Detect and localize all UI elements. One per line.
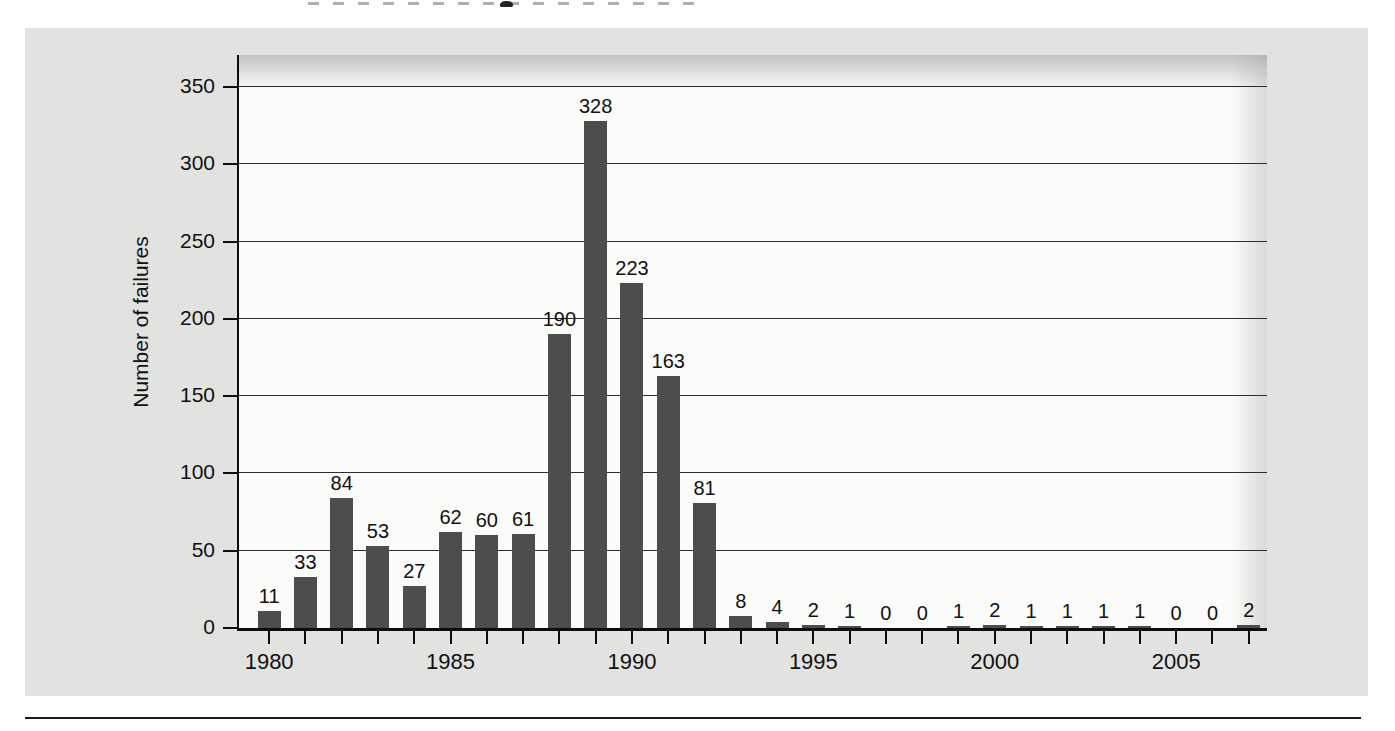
year-slot-1988: 190 — [541, 55, 577, 628]
y-tick-label-0: 0 — [147, 616, 215, 638]
bar-1986: 60 — [475, 535, 498, 628]
year-slot-2000: 22000 — [977, 55, 1013, 628]
x-tick-2000 — [994, 631, 996, 644]
bar-value-label-1990: 223 — [615, 258, 648, 278]
year-slot-2001: 1 — [1013, 55, 1049, 628]
x-tick-1997 — [885, 631, 887, 644]
bar-2004: 1 — [1128, 626, 1151, 628]
bar-1991: 163 — [657, 376, 680, 628]
y-tick-label-250: 250 — [147, 230, 215, 252]
bar-1982: 84 — [330, 498, 353, 628]
bar-1996: 1 — [838, 626, 861, 628]
bar-value-label-2001: 1 — [1025, 601, 1036, 621]
bar-1985: 62 — [439, 532, 462, 628]
y-tick-50 — [223, 550, 237, 552]
y-tick-200 — [223, 318, 237, 320]
year-slot-1980: 111980 — [251, 55, 287, 628]
bar-value-label-1991: 163 — [652, 351, 685, 371]
x-tick-1982 — [341, 631, 343, 644]
x-tick-1998 — [921, 631, 923, 644]
bar-value-label-1998: 0 — [917, 603, 928, 623]
x-tick-1980 — [268, 631, 270, 644]
x-tick-1986 — [486, 631, 488, 644]
year-slot-2002: 1 — [1049, 55, 1085, 628]
x-axis-label-1995: 1995 — [789, 649, 838, 675]
y-tick-label-200: 200 — [147, 307, 215, 329]
bar-chart-plot-area: 1119803384532762198560611903282231990163… — [237, 55, 1267, 631]
x-tick-1988 — [558, 631, 560, 644]
year-slot-1994: 4 — [759, 55, 795, 628]
x-axis-label-1990: 1990 — [607, 649, 656, 675]
page-bottom-rule — [25, 717, 1361, 719]
x-tick-1993 — [740, 631, 742, 644]
bar-value-label-2003: 1 — [1098, 601, 1109, 621]
y-tick-250 — [223, 241, 237, 243]
bar-1984: 27 — [403, 586, 426, 628]
bar-value-label-1984: 27 — [403, 561, 425, 581]
bars-container: 1119803384532762198560611903282231990163… — [239, 55, 1267, 628]
year-slot-1999: 1 — [940, 55, 976, 628]
x-tick-1995 — [812, 631, 814, 644]
year-slot-2007: 2 — [1231, 55, 1267, 628]
year-slot-1981: 33 — [287, 55, 323, 628]
year-slot-1992: 81 — [686, 55, 722, 628]
x-tick-2002 — [1066, 631, 1068, 644]
scanned-page: Number of failures 111980338453276219856… — [0, 0, 1395, 731]
year-slot-1996: 1 — [832, 55, 868, 628]
bar-value-label-1992: 81 — [693, 478, 715, 498]
y-tick-150 — [223, 395, 237, 397]
bar-value-label-1983: 53 — [367, 521, 389, 541]
year-slot-2005: 02005 — [1158, 55, 1194, 628]
x-tick-1989 — [595, 631, 597, 644]
year-slot-1998: 0 — [904, 55, 940, 628]
y-tick-label-300: 300 — [147, 152, 215, 174]
bar-1987: 61 — [512, 534, 535, 628]
bar-value-label-2005: 0 — [1171, 603, 1182, 623]
bar-1999: 1 — [947, 626, 970, 628]
y-tick-350 — [223, 86, 237, 88]
y-tick-label-100: 100 — [147, 461, 215, 483]
year-slot-2006: 0 — [1194, 55, 1230, 628]
x-tick-2005 — [1175, 631, 1177, 644]
x-tick-1991 — [667, 631, 669, 644]
bar-1993: 8 — [729, 616, 752, 628]
bar-value-label-2004: 1 — [1134, 601, 1145, 621]
y-tick-300 — [223, 163, 237, 165]
x-axis-label-1985: 1985 — [426, 649, 475, 675]
x-tick-1981 — [304, 631, 306, 644]
year-slot-1982: 84 — [324, 55, 360, 628]
y-tick-0 — [223, 627, 237, 629]
x-tick-1992 — [704, 631, 706, 644]
bar-value-label-2002: 1 — [1062, 601, 1073, 621]
year-slot-2003: 1 — [1085, 55, 1121, 628]
x-tick-1999 — [957, 631, 959, 644]
y-tick-label-150: 150 — [147, 384, 215, 406]
bar-value-label-1987: 61 — [512, 509, 534, 529]
bar-value-label-1981: 33 — [294, 552, 316, 572]
year-slot-1986: 60 — [469, 55, 505, 628]
year-slot-1987: 61 — [505, 55, 541, 628]
x-tick-2004 — [1139, 631, 1141, 644]
bar-value-label-1995: 2 — [808, 600, 819, 620]
year-slot-1989: 328 — [578, 55, 614, 628]
year-slot-1990: 2231990 — [614, 55, 650, 628]
bar-1988: 190 — [548, 334, 571, 628]
bar-1995: 2 — [802, 625, 825, 628]
year-slot-1995: 21995 — [795, 55, 831, 628]
bar-1990: 223 — [620, 283, 643, 628]
bar-value-label-1988: 190 — [543, 309, 576, 329]
x-tick-1990 — [631, 631, 633, 644]
bar-value-label-1985: 62 — [439, 507, 461, 527]
bar-2000: 2 — [983, 625, 1006, 628]
x-tick-2001 — [1030, 631, 1032, 644]
bar-value-label-2006: 0 — [1207, 603, 1218, 623]
year-slot-2004: 1 — [1122, 55, 1158, 628]
bar-1983: 53 — [366, 546, 389, 628]
y-tick-label-50: 50 — [147, 539, 215, 561]
bar-2003: 1 — [1092, 626, 1115, 628]
bar-1989: 328 — [584, 121, 607, 628]
bar-value-label-2007: 2 — [1243, 600, 1254, 620]
bar-value-label-1993: 8 — [735, 591, 746, 611]
bar-1992: 81 — [693, 503, 716, 628]
bar-1980: 11 — [258, 611, 281, 628]
